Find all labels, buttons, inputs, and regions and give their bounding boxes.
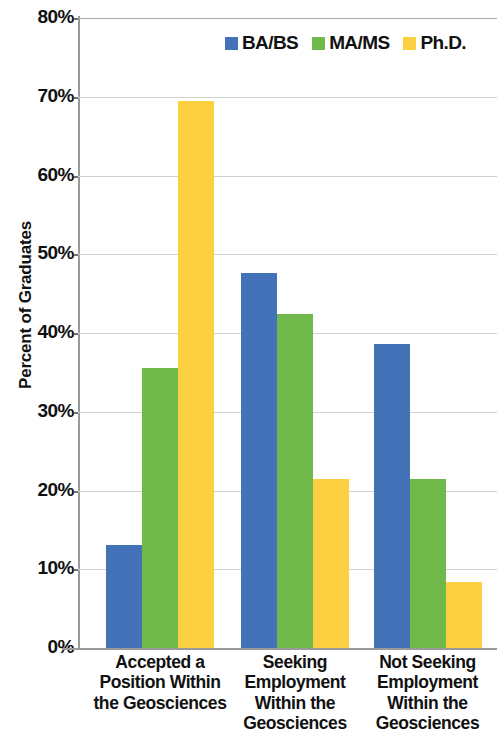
gridline	[78, 176, 497, 177]
bar	[313, 479, 349, 648]
y-axis-tick-label: 70%	[4, 86, 74, 105]
category-label-line: Within the	[228, 693, 362, 713]
y-axis-tick-label: 10%	[4, 558, 74, 577]
bar	[106, 545, 142, 648]
category-label-line: Not Seeking	[358, 652, 497, 672]
legend-label: MA/MS	[329, 32, 389, 54]
y-axis-tick-label: 60%	[4, 165, 74, 184]
legend-item[interactable]: Ph.D.	[403, 32, 466, 54]
legend-label: Ph.D.	[420, 32, 466, 54]
y-axis-tick-label: 40%	[4, 322, 74, 341]
category-label-line: Within the	[358, 693, 497, 713]
category-label-line: Employment	[358, 672, 497, 692]
bar	[277, 314, 313, 648]
bar	[410, 479, 446, 648]
y-axis-tick-label: 30%	[4, 401, 74, 420]
bar-chart: Percent of Graduates 80%70%60%50%40%30%2…	[0, 0, 497, 755]
category-label-line: Seeking	[228, 652, 362, 672]
x-axis-category-labels: Accepted aPosition Withinthe Geosciences…	[0, 652, 497, 755]
plot-area	[78, 18, 497, 648]
category-label-line: Geosciences	[358, 713, 497, 733]
gridline	[78, 254, 497, 255]
y-axis-tick-label: 20%	[4, 480, 74, 499]
bar	[446, 582, 482, 648]
bar	[142, 368, 178, 648]
gridline	[78, 97, 497, 98]
y-axis-ticks: 80%70%60%50%40%30%20%10%0%	[0, 0, 74, 755]
bar	[178, 101, 214, 648]
legend-swatch-icon	[403, 37, 416, 50]
category-label-line: Employment	[228, 672, 362, 692]
bar	[374, 344, 410, 648]
bar	[241, 273, 277, 648]
chart-legend: BA/BSMA/MSPh.D.	[225, 32, 466, 54]
category-label-line: Geosciences	[228, 713, 362, 733]
x-axis-category-label: Not SeekingEmploymentWithin theGeoscienc…	[358, 652, 497, 733]
y-axis-tick-label: 50%	[4, 243, 74, 262]
x-axis-line	[62, 648, 497, 650]
legend-item[interactable]: MA/MS	[312, 32, 389, 54]
legend-label: BA/BS	[242, 32, 298, 54]
legend-item[interactable]: BA/BS	[225, 32, 298, 54]
legend-swatch-icon	[225, 37, 238, 50]
x-axis-category-label: SeekingEmploymentWithin theGeosciences	[228, 652, 362, 733]
legend-swatch-icon	[312, 37, 325, 50]
y-axis-tick-label: 80%	[4, 7, 74, 26]
gridline	[78, 18, 497, 19]
